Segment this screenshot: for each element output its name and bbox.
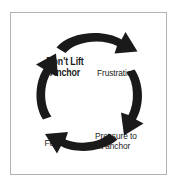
figure-canvas: Don't Lift Anchor Frustration Pressure t… [0, 0, 178, 188]
arrow-top-icon [57, 32, 138, 54]
node-label-dont-lift-anchor: Don't Lift Anchor [32, 57, 99, 78]
arrow-right-icon [121, 70, 144, 136]
cycle-diagram-svg [11, 13, 168, 176]
node-label-frustration: Frustration [97, 68, 153, 78]
diagram-frame: Don't Lift Anchor Frustration Pressure t… [10, 12, 167, 175]
node-label-pressure-to-lift-anchor: Pressure to lift anchor [95, 131, 150, 151]
node-label-fear: Fear [34, 138, 73, 148]
